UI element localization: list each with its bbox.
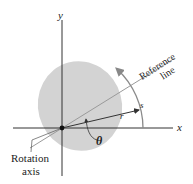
arc-length-label: s: [140, 100, 144, 110]
theta-label: θ: [96, 134, 103, 148]
y-axis-label: y: [57, 9, 63, 21]
origin-dot: [60, 126, 65, 131]
radius-label: r: [120, 111, 124, 121]
rotation-axis-label-line2: axis: [22, 165, 40, 177]
diagram-svg: y x Reference line s r θ Rotation axis: [0, 0, 193, 184]
rigid-body: [28, 52, 132, 161]
rotation-diagram: y x Reference line s r θ Rotation axis: [0, 0, 193, 184]
reference-line-label: Reference line: [137, 50, 183, 91]
x-axis-label: x: [176, 121, 182, 133]
rotation-axis-label-line1: Rotation: [11, 152, 49, 164]
